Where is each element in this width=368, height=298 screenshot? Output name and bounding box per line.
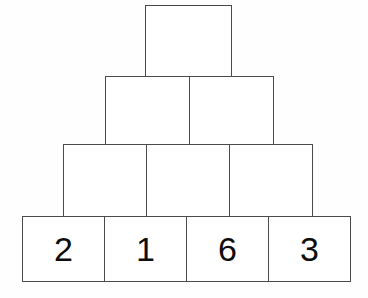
pyramid-cell[interactable]: [146, 144, 230, 217]
pyramid-cell[interactable]: 6: [186, 216, 269, 282]
pyramid-row-4: 2 1 6 3: [22, 216, 351, 282]
pyramid-cell[interactable]: [63, 144, 147, 217]
pyramid-cell[interactable]: [189, 76, 274, 145]
pyramid-cell[interactable]: 2: [22, 216, 105, 282]
cell-value: 2: [54, 232, 73, 266]
cell-value: 3: [300, 232, 319, 266]
pyramid-diagram: 2 1 6 3: [0, 0, 368, 298]
cell-value: 1: [136, 232, 155, 266]
pyramid-row-3: [63, 144, 313, 217]
pyramid-cell[interactable]: [229, 144, 313, 217]
pyramid-cell[interactable]: [145, 5, 232, 78]
pyramid-cell[interactable]: 1: [104, 216, 187, 282]
cell-value: 6: [218, 232, 237, 266]
pyramid-cell[interactable]: 3: [268, 216, 351, 282]
pyramid-row-1: [145, 5, 232, 78]
pyramid-cell[interactable]: [105, 76, 190, 145]
pyramid-row-2: [105, 76, 274, 145]
